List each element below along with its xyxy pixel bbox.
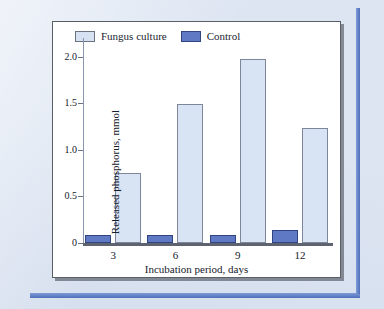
- bar-control-9: [210, 235, 236, 243]
- chart-plot-frame: Fungus culture Control 00.51.01.52.0 369…: [52, 21, 341, 278]
- y-tick-label: 0: [51, 237, 77, 248]
- y-axis-title-wrap: Released phosphorus, mmol: [83, 62, 103, 262]
- y-tick-label: 1.0: [51, 144, 77, 155]
- bar-control-6: [147, 235, 173, 243]
- y-tick-mark: [78, 57, 83, 58]
- x-category-label-12: 12: [294, 249, 305, 261]
- decorative-rule-right: [356, 8, 360, 294]
- chart-bars: [84, 38, 333, 243]
- bar-fungus-culture-9: [240, 59, 266, 243]
- bar-fungus-culture-12: [302, 128, 328, 243]
- y-tick-label: 1.5: [51, 97, 77, 108]
- bar-fungus-culture-6: [177, 104, 203, 243]
- x-category-label-9: 9: [235, 249, 241, 261]
- bar-control-12: [272, 230, 298, 243]
- y-tick-label: 2.0: [51, 51, 77, 62]
- decorative-rule-bottom: [30, 293, 360, 298]
- y-axis-title: Released phosphorus, mmol: [109, 92, 121, 252]
- y-tick-label: 0.5: [51, 190, 77, 201]
- x-axis-title: Incubation period, days: [52, 263, 341, 275]
- figure-page: Fungus culture Control 00.51.01.52.0 369…: [0, 0, 384, 309]
- x-category-label-6: 6: [173, 249, 179, 261]
- chart-plot-area: Fungus culture Control 00.51.01.52.0 369…: [53, 22, 340, 277]
